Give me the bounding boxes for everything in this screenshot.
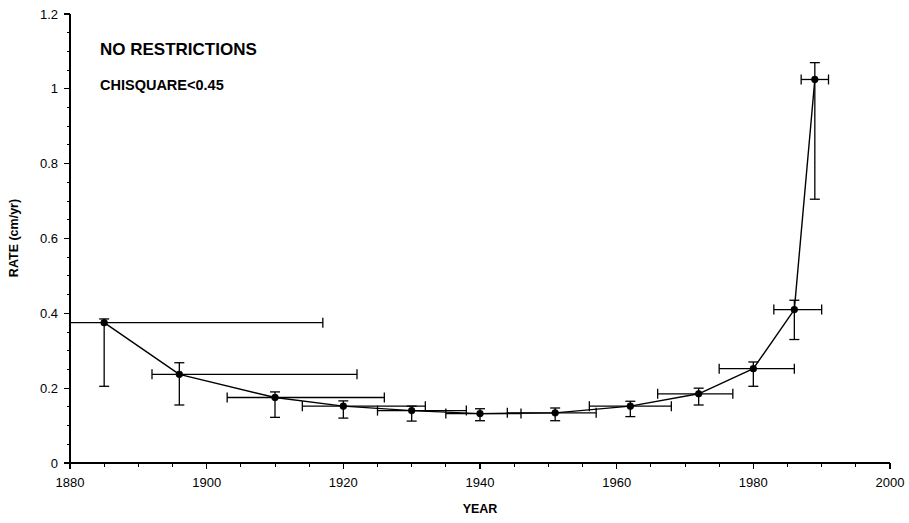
data-point-markers	[101, 76, 818, 417]
x-tick-label: 2000	[876, 475, 905, 490]
y-axis-title: RATE (cm/yr)	[7, 199, 21, 277]
chart-figure: 00.20.40.60.811.2 1880190019201940196019…	[0, 0, 909, 523]
data-point-marker	[340, 403, 347, 410]
y-tick-label: 0	[51, 456, 58, 471]
data-point-marker	[791, 306, 798, 313]
data-point-marker	[101, 319, 108, 326]
y-tick-label: 0.2	[40, 381, 58, 396]
y-tick-label: 0.8	[40, 156, 58, 171]
y-tick-label: 0.4	[40, 306, 58, 321]
data-point-marker	[272, 394, 279, 401]
y-tick-label: 1	[51, 81, 58, 96]
x-tick-label: 1940	[466, 475, 495, 490]
error-bars-group	[70, 63, 829, 421]
annotation-no-restrictions: NO RESTRICTIONS	[100, 40, 257, 59]
rate-vs-year-line-chart: 00.20.40.60.811.2 1880190019201940196019…	[0, 0, 909, 523]
series-polyline	[104, 79, 815, 413]
y-tick-label: 1.2	[40, 7, 58, 22]
data-point-marker	[750, 365, 757, 372]
y-tick-label: 0.6	[40, 231, 58, 246]
y-axis-tick-labels: 00.20.40.60.811.2	[40, 7, 58, 471]
x-axis-tick-labels: 1880190019201940196019802000	[56, 475, 905, 490]
data-point-marker	[627, 403, 634, 410]
annotation-chisquare: CHISQUARE<0.45	[100, 77, 224, 93]
x-tick-label: 1880	[56, 475, 85, 490]
x-tick-label: 1900	[192, 475, 221, 490]
data-point-marker	[552, 409, 559, 416]
x-tick-label: 1920	[329, 475, 358, 490]
series-line-group	[104, 79, 815, 413]
x-axis-ticks	[70, 463, 890, 469]
x-tick-label: 1960	[602, 475, 631, 490]
y-axis-ticks	[64, 14, 70, 463]
x-axis-title: YEAR	[463, 502, 498, 516]
data-point-marker	[695, 390, 702, 397]
x-tick-label: 1980	[739, 475, 768, 490]
data-point-marker	[477, 410, 484, 417]
data-point-marker	[408, 407, 415, 414]
data-point-marker	[811, 76, 818, 83]
data-point-marker	[176, 371, 183, 378]
